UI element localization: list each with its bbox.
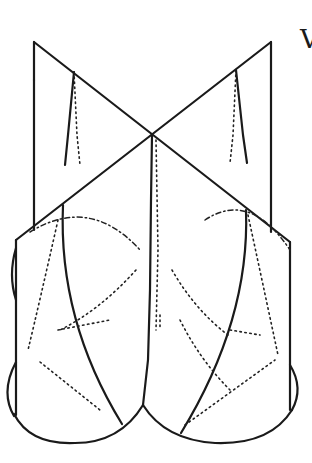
side-edges: [7, 240, 297, 416]
cup-seams: [63, 205, 247, 433]
left-upper-panel: [34, 42, 80, 230]
pattern-diagram: [0, 0, 312, 463]
center-seam: [143, 135, 158, 405]
corner-label: V: [300, 26, 312, 52]
construction-lines: [28, 210, 290, 425]
right-upper-panel: [230, 42, 271, 232]
bottom-arcs: [14, 405, 292, 443]
